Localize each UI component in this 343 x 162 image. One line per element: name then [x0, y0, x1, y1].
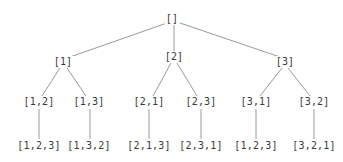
tree-node-level2: [2,1] [132, 96, 165, 108]
tree-node-leaf: [2,1,3] [126, 140, 172, 152]
tree-edge [70, 23, 167, 57]
tree-node-level2: [1,2] [22, 96, 55, 108]
tree-edge [288, 68, 310, 96]
tree-node-level2: [1,3] [72, 96, 105, 108]
tree-node-level1: [1] [53, 56, 74, 68]
tree-node-leaf: [2,3,1] [178, 140, 224, 152]
tree-edge [153, 63, 171, 96]
tree-node-level2: [3,2] [297, 96, 330, 108]
tree-edge [260, 68, 282, 96]
tree-edge [67, 68, 86, 96]
tree-node-leaf: [1,3,2] [66, 140, 112, 152]
tree-node-level1: [2] [164, 51, 185, 63]
tree-node-level2: [2,3] [184, 96, 217, 108]
tree-edge [42, 68, 60, 96]
tree-edge [177, 63, 197, 96]
tree-node-level2: [3,1] [239, 96, 272, 108]
tree-node-leaf: [1,2,3] [233, 140, 279, 152]
tree-edge [180, 23, 280, 57]
tree-node-level1: [3] [275, 56, 296, 68]
tree-node-root: [] [165, 13, 179, 25]
tree-node-leaf: [3,2,1] [291, 140, 337, 152]
tree-node-leaf: [1,2,3] [16, 140, 62, 152]
